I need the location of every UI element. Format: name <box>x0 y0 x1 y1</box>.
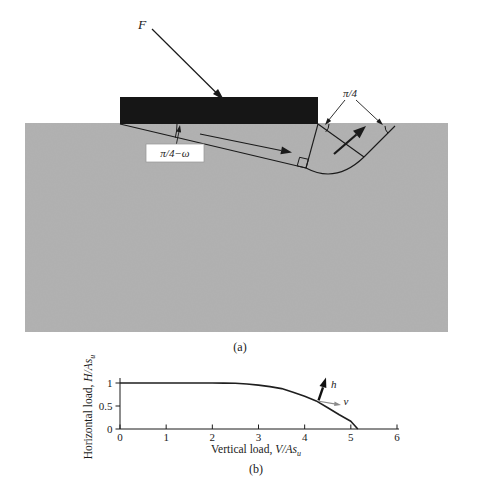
fan-angle-label: π/4 <box>343 87 358 99</box>
figure-canvas: F π/4−ω π/4 (a) 012345600.51hv <box>0 0 479 492</box>
h-velocity-label: h <box>331 378 337 390</box>
v-velocity-label: v <box>344 395 349 407</box>
v-velocity-arrowhead <box>334 402 341 406</box>
caption-b: (b) <box>249 462 263 476</box>
x-tick-label: 3 <box>256 431 262 443</box>
fan-angle-leader-right <box>356 100 379 122</box>
caption-a: (a) <box>233 340 246 354</box>
x-tick-label: 2 <box>210 431 216 443</box>
h-velocity-arrowhead <box>320 377 327 388</box>
x-tick-label: 5 <box>348 431 354 443</box>
y-tick-label: 1 <box>107 377 113 389</box>
textbook-figure: F π/4−ω π/4 (a) 012345600.51hv <box>0 0 479 492</box>
force-label: F <box>137 17 147 32</box>
fan-angle-leader-left <box>328 100 345 121</box>
force-arrow-shaft <box>152 29 216 93</box>
soil-body <box>25 123 448 332</box>
h-velocity-arrow-shaft <box>319 387 324 400</box>
y-tick-label: 0 <box>107 423 113 435</box>
x-tick-label: 0 <box>117 431 123 443</box>
wedge-angle-label: π/4−ω <box>160 147 189 159</box>
x-tick-label: 1 <box>163 431 169 443</box>
x-tick-label: 4 <box>302 431 308 443</box>
y-axis-title: Horizontal load, H/Asu <box>82 355 97 460</box>
x-axis-title: Vertical load, V/Asu <box>211 443 301 458</box>
x-tick-label: 6 <box>394 431 400 443</box>
panel-a-mechanism-diagram: F π/4−ω π/4 (a) <box>25 17 448 354</box>
footing <box>120 97 318 124</box>
y-tick-label: 0.5 <box>99 400 113 412</box>
panel-b-chart: 012345600.51hv Vertical load, V/Asu Hori… <box>82 355 400 476</box>
chart-plot-area: 012345600.51hv <box>99 377 401 443</box>
